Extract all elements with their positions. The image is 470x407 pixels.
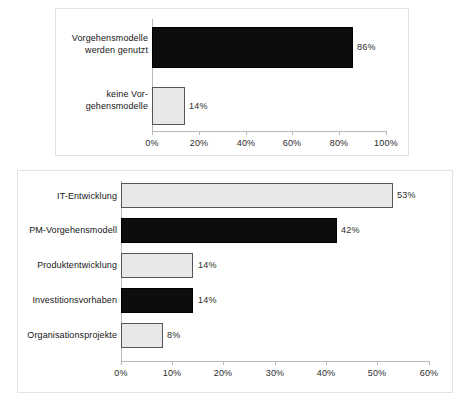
plot-area-bottom: 0% 10% 20% 30% 40% 50% 60% IT-Entwicklun… (18, 171, 452, 392)
category-label: Organisationsprojekte (18, 329, 117, 341)
bar-pm-vorgehensmodell (121, 218, 337, 243)
bar-keine-vorgehensmodelle (152, 87, 185, 125)
chart-panel-top: 0% 20% 40% 60% 80% 100% Vorgehensmodelle… (55, 8, 409, 156)
x-tick-mark (292, 131, 293, 135)
x-tick-label: 40% (226, 138, 266, 148)
bar-value-label: 14% (198, 295, 217, 305)
x-tick-label: 50% (357, 368, 397, 378)
x-tick-mark (386, 131, 387, 135)
x-tick-label: 10% (152, 368, 192, 378)
x-tick-mark (339, 131, 340, 135)
category-label: Investitionsvorhaben (18, 294, 117, 306)
bar-investitionsvorhaben (121, 288, 193, 313)
plot-area-top: 0% 20% 40% 60% 80% 100% Vorgehensmodelle… (56, 9, 408, 155)
bar-produktentwicklung (121, 253, 193, 278)
bar-value-label: 53% (397, 190, 416, 200)
category-label: Produktentwicklung (18, 259, 117, 271)
x-tick-mark (377, 361, 378, 365)
chart-panel-bottom: 0% 10% 20% 30% 40% 50% 60% IT-Entwicklun… (17, 170, 453, 393)
x-tick-mark (152, 131, 153, 135)
bar-organisationsprojekte (121, 323, 163, 348)
x-tick-label: 80% (319, 138, 359, 148)
x-tick-label: 20% (179, 138, 219, 148)
bar-value-label: 42% (341, 225, 360, 235)
x-tick-label: 60% (409, 368, 449, 378)
category-label: IT-Entwicklung (18, 190, 117, 202)
category-label: Vorgehensmodelle werden genutzt (52, 32, 148, 56)
x-tick-mark (246, 131, 247, 135)
x-tick-label: 30% (255, 368, 295, 378)
x-tick-mark (199, 131, 200, 135)
x-tick-mark (121, 361, 122, 365)
x-tick-label: 60% (272, 138, 312, 148)
x-tick-mark (223, 361, 224, 365)
bar-value-label: 86% (357, 42, 376, 52)
bar-it-entwicklung (121, 183, 393, 208)
bar-value-label: 8% (167, 330, 180, 340)
x-tick-mark (172, 361, 173, 365)
x-tick-mark (326, 361, 327, 365)
x-axis-line-top (152, 131, 386, 132)
category-label: keine Vor- gehensmodelle (52, 88, 148, 112)
x-tick-mark (429, 361, 430, 365)
x-tick-mark (275, 361, 276, 365)
x-tick-label: 100% (366, 138, 406, 148)
x-tick-label: 0% (101, 368, 141, 378)
bar-value-label: 14% (198, 260, 217, 270)
bar-value-label: 14% (189, 101, 208, 111)
x-tick-label: 0% (132, 138, 172, 148)
bar-vorgehensmodelle-werden-genutzt (152, 27, 353, 68)
category-label: PM-Vorgehensmodell (18, 224, 117, 236)
x-tick-label: 20% (203, 368, 243, 378)
x-tick-label: 40% (306, 368, 346, 378)
